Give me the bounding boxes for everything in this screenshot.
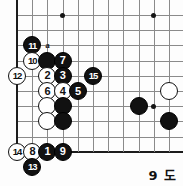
stone-move-number: 14 (13, 147, 22, 157)
go-stone-black[interactable] (160, 112, 178, 130)
stone-move-number: 12 (13, 71, 22, 81)
go-stone-black-15[interactable]: 15 (84, 67, 102, 85)
grid-line-vertical (108, 0, 109, 152)
stone-move-number: 7 (60, 55, 66, 66)
star-point (151, 104, 156, 109)
stone-move-number: 3 (60, 70, 66, 81)
board-marker-letter: a (45, 40, 50, 50)
grid-line-vertical (78, 0, 79, 152)
grid-line-horizontal (17, 45, 183, 46)
go-diagram-root: a111071223156451481913 9 도 (0, 0, 183, 186)
grid-line-vertical (123, 0, 124, 152)
stone-move-number: 13 (28, 162, 37, 172)
stone-move-number: 11 (28, 40, 36, 50)
go-stone-black-13[interactable]: 13 (23, 158, 41, 176)
stone-move-number: 15 (89, 71, 98, 81)
go-stone-white[interactable] (160, 82, 178, 100)
grid-line-vertical (139, 0, 140, 152)
stone-move-number: 9 (60, 146, 66, 157)
go-stone-black[interactable] (130, 97, 148, 115)
stone-move-number: 1 (45, 146, 51, 157)
stone-move-number: 5 (75, 85, 81, 96)
go-stone-black-5[interactable]: 5 (69, 82, 87, 100)
star-point (60, 13, 65, 18)
go-stone-black-9[interactable]: 9 (54, 143, 72, 161)
go-stone-white-12[interactable]: 12 (8, 67, 26, 85)
stone-move-number: 6 (45, 85, 51, 96)
stone-move-number: 2 (45, 70, 51, 81)
stone-move-number: 8 (29, 146, 35, 157)
grid-line-horizontal (17, 15, 183, 16)
star-point (151, 13, 156, 18)
grid-line-horizontal (17, 30, 183, 31)
grid-line-vertical (32, 0, 33, 152)
go-stone-black[interactable] (54, 112, 72, 130)
stone-move-number: 4 (60, 85, 66, 96)
go-board[interactable]: a111071223156451481913 (0, 0, 183, 170)
grid-line-vertical (154, 0, 155, 152)
stone-move-number: 10 (28, 55, 37, 65)
diagram-caption: 9 도 (148, 165, 177, 184)
grid-line-horizontal (17, 137, 183, 138)
